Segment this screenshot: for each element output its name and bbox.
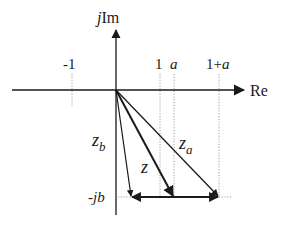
- vector-z: [116, 90, 173, 196]
- vector-label-z-b: zb: [91, 130, 106, 154]
- tick-label-minus-one: -1: [63, 56, 76, 72]
- imag-axis-label: jIm: [95, 9, 120, 27]
- z-a-subscript: a: [186, 142, 193, 157]
- imag-text: Im: [101, 9, 119, 26]
- vector-label-z-a: za: [178, 133, 193, 157]
- z-a-symbol: z: [178, 133, 186, 153]
- vector-label-z: z: [140, 157, 148, 177]
- one-plus-var: a: [222, 56, 230, 72]
- z-b-symbol: z: [91, 130, 99, 150]
- real-axis-label: Re: [250, 82, 268, 99]
- z-b-subscript: b: [99, 139, 106, 154]
- tick-label-one: 1: [155, 56, 163, 72]
- tick-label-one-plus-a: 1+a: [206, 56, 229, 72]
- one-plus-prefix: 1+: [206, 56, 222, 72]
- tick-label-minus-jb: -jb: [88, 189, 105, 205]
- complex-plane-diagram: jIm Re -1 1 a 1+a -jb zb z za: [0, 0, 292, 227]
- tick-label-a: a: [170, 56, 178, 72]
- vector-z-a: [116, 90, 218, 196]
